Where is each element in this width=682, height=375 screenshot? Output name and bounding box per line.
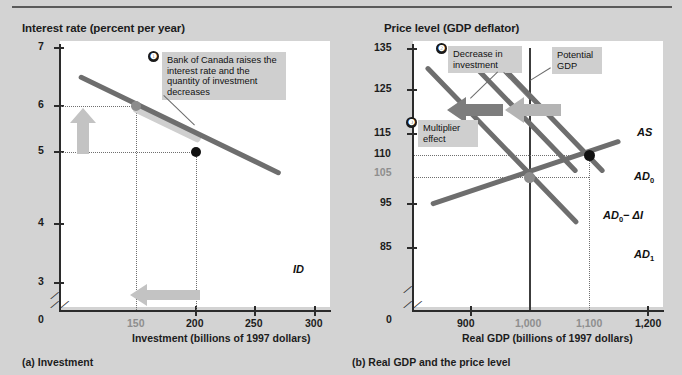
- panel-b-ylabel-origin: 0: [386, 313, 392, 325]
- panel-b-ytick-135: [407, 48, 417, 50]
- panel-a-xlabel-300: 300: [305, 317, 323, 329]
- panel-b-ylabel-85: 85: [380, 240, 392, 252]
- panel-b-curve-label-AD1: AD1: [634, 248, 654, 263]
- top-divider-rule: [12, 6, 672, 8]
- panel-a-arrow-investment-decrease: [130, 284, 200, 310]
- panel-b-y-break-mark: ⁄: [405, 282, 412, 297]
- panel-b-callout-2-badge: ❷: [436, 43, 447, 54]
- panel-b-ylabel-115: 115: [374, 126, 391, 138]
- panel-a-xlabel-200: 200: [186, 317, 204, 329]
- panel-a-y-axis-title: Interest rate (percent per year): [22, 22, 185, 34]
- panel-a-ylabel-3: 3: [38, 275, 44, 287]
- panel-a-ytick-4: [54, 223, 64, 225]
- panel-a-ylabel-7: 7: [38, 40, 44, 52]
- panel-b-caption: (b) Real GDP and the price level: [352, 356, 511, 368]
- panel-a-ylabel-origin: 0: [38, 313, 44, 325]
- panel-b-ylabel-125: 125: [374, 82, 392, 94]
- panel-a-point-initial-equilibrium: [191, 147, 201, 157]
- panel-b-xtick-900: [470, 306, 472, 316]
- panel-b-ylabel-110: 110: [374, 147, 391, 159]
- panel-b-ylabel-135: 135: [374, 41, 392, 53]
- panel-a-guide-h-6: [61, 106, 136, 107]
- panel-b-label-ad1-sub: 1: [650, 254, 654, 263]
- figure-container: Interest rate (percent per year) 7 6 5 4…: [0, 0, 682, 375]
- panel-a-y-axis-line: [59, 44, 61, 312]
- panel-b-label-as-text: AS: [637, 126, 652, 138]
- panel-a-x-axis-title: Investment (billions of 1997 dollars): [132, 332, 311, 344]
- panel-a-xtick-300: [314, 306, 316, 316]
- panel-b-ytick-115: [407, 133, 417, 135]
- panel-a-ytick-3: [54, 282, 64, 284]
- panel-a-caption: (a) Investment: [22, 356, 93, 368]
- panel-a-ytick-7: [54, 47, 64, 49]
- panel-a-callout-1-badge: ❶: [148, 51, 159, 62]
- panel-b-ytick-85: [407, 247, 417, 249]
- panel-a-ylabel-4: 4: [38, 216, 44, 228]
- panel-b-x-axis-title: Real GDP (billions of 1997 dollars): [462, 332, 633, 344]
- panel-b-ylabel-105: 105: [374, 166, 392, 178]
- panel-b-curve-label-AD0: AD0: [634, 170, 654, 185]
- panel-b-y-axis-line: [412, 44, 414, 312]
- panel-b-xlabel-1100: 1,100: [576, 317, 602, 329]
- panel-a-xtick-250: [254, 306, 256, 316]
- panel-b-callout-3-text: Multiplier effect: [418, 120, 478, 147]
- panel-b-xlabel-900: 900: [457, 317, 475, 329]
- panel-a-ylabel-5: 5: [38, 144, 44, 156]
- panel-b-curve-label-AD-delta: AD0− ΔI: [603, 209, 643, 224]
- panel-b-callout-3-badge: ❸: [406, 117, 417, 128]
- panel-a-xlabel-250: 250: [245, 317, 263, 329]
- panel-b-label-ad1-text: AD: [634, 248, 650, 260]
- panel-b-point-new-equilibrium: [524, 172, 535, 183]
- panel-a-callout-1-text: Bank of Canada raises the interest rate …: [162, 52, 286, 100]
- panel-b-label-addelta-text: AD: [603, 209, 619, 221]
- panel-b-origin-break-mark: ⁄: [405, 297, 412, 312]
- panel-b-xlabel-1000: 1,000: [515, 317, 541, 329]
- panel-b-curve-label-AS: AS: [637, 126, 652, 138]
- panel-b-y-axis-title: Price level (GDP deflator): [384, 22, 519, 34]
- panel-a-arrow-rate-increase: [69, 108, 97, 158]
- panel-a-ylabel-6: 6: [38, 98, 44, 110]
- panel-a-point-new-equilibrium: [131, 101, 141, 111]
- panel-real-gdp-price-level: Price level (GDP deflator) 135 125 115 1…: [352, 20, 670, 336]
- panel-b-guide-v-1100: [589, 157, 590, 310]
- panel-b-x-axis-line: [412, 310, 664, 312]
- panel-b-xlabel-1200: 1,200: [635, 317, 661, 329]
- panel-b-label-addelta-rest: − ΔI: [623, 209, 643, 221]
- panel-b-label-ad0-sub: 0: [650, 176, 654, 185]
- panel-a-curve-label-ID: ID: [293, 263, 304, 275]
- panel-a-guide-v-150: [136, 106, 137, 310]
- panel-b-callout-potential-gdp: Potential GDP: [552, 47, 602, 74]
- panel-a-xlabel-150: 150: [127, 317, 145, 329]
- panel-b-ylabel-95: 95: [380, 196, 392, 208]
- panel-b-label-ad0-text: AD: [634, 170, 650, 182]
- panel-investment: Interest rate (percent per year) 7 6 5 4…: [14, 20, 342, 336]
- panel-b-plot-area: [413, 41, 663, 307]
- panel-b-ytick-95: [407, 203, 417, 205]
- panel-b-xtick-1200: [647, 306, 649, 316]
- panel-b-point-initial-equilibrium: [584, 150, 595, 161]
- panel-b-ytick-125: [407, 89, 417, 91]
- panel-b-callout-2-text: Decrease in investment: [448, 46, 522, 73]
- panel-b-arrow-decrease-investment: [505, 97, 561, 127]
